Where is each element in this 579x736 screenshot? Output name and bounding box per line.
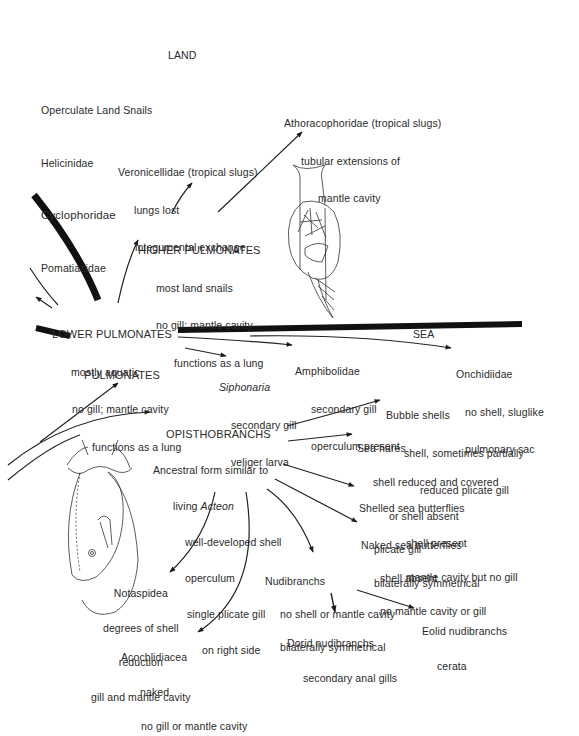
node-title: Athoracophoridae (tropical slugs)	[284, 117, 441, 130]
node-title: Veronicellidae (tropical slugs)	[118, 166, 258, 179]
node-line: cerata	[422, 661, 507, 673]
node-acochlidiacea: Acochlidiacea naked no gill or mantle ca…	[121, 629, 247, 736]
node-line: most land snails	[138, 282, 263, 295]
node-title: Amphibolidae	[295, 365, 400, 378]
node-dorid-nudibranchs: Dorid nudibranchs secondary anal gills	[287, 615, 397, 696]
node-line-acteon: Acteon	[201, 500, 234, 512]
node-title: Siphonaria	[219, 381, 270, 393]
node-title: LOWER PULMONATES	[52, 328, 181, 341]
sea-label: SEA	[413, 328, 434, 341]
node-title: Sea hares	[357, 443, 499, 454]
node-title: Naked sea butterflies	[361, 540, 486, 551]
node-pulmonates: PULMONATES	[84, 369, 160, 382]
node-athoracophoridae: Athoracophoridae (tropical slugs) tubula…	[284, 92, 441, 217]
node-line: Ancestral form similar to	[153, 464, 282, 476]
arrow-to-naked-sea-butterflies	[275, 479, 357, 522]
node-title: OPISTHOBRANCHS	[153, 428, 282, 440]
node-line: tubular extensions of	[284, 155, 441, 168]
node-line: secondary gill	[295, 403, 400, 416]
node-title: Bubble shells	[386, 409, 524, 422]
node-eolid-nudibranchs: Eolid nudibranchs cerata	[422, 603, 507, 684]
land-item-operculate: Operculate Land Snails	[41, 102, 152, 120]
node-title: Dorid nudibranchs	[287, 638, 397, 650]
node-line: well-developed shell	[153, 536, 282, 548]
node-title: Acochlidiacea	[121, 652, 247, 664]
node-title: Eolid nudibranchs	[422, 626, 507, 638]
node-line: living	[173, 500, 198, 512]
node-line: secondary anal gills	[287, 673, 397, 685]
node-title: Onchidiidae	[456, 368, 544, 381]
node-line: no gill or mantle cavity	[121, 721, 247, 733]
arrow-to-land-operculate	[36, 297, 52, 308]
node-title: Nudibranchs	[265, 576, 395, 587]
node-line: lungs lost	[118, 204, 258, 217]
land-label: LAND	[168, 49, 196, 62]
node-title: Shelled sea butterflies	[359, 503, 518, 515]
node-line: mantle cavity	[284, 192, 441, 205]
node-title: Notaspidea	[91, 588, 191, 600]
node-title: HIGHER PULMONATES	[138, 244, 263, 257]
node-line: naked	[121, 687, 247, 699]
